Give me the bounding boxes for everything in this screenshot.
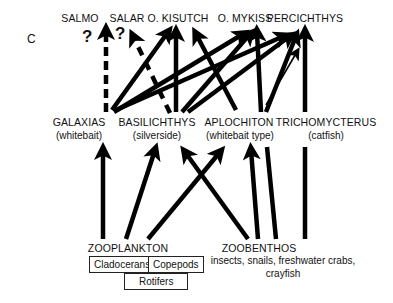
node-trichomycterus-common: (catfish) (308, 130, 344, 141)
group-rotifers: Rotifers (124, 273, 188, 290)
node-basilichthys-common: (silverside) (133, 130, 181, 141)
edge-zooplankton-basilichthys (126, 150, 155, 239)
zoobenthos-desc-line1: insects, snails, freshwater crabs, (211, 255, 356, 266)
node-aplochiton-common: (whitebait type) (206, 130, 274, 141)
question-mark-salmo: ? (82, 27, 92, 47)
edge-aplochiton-percichthys (266, 36, 296, 112)
group-cladocerans: Cladocerans (89, 256, 155, 273)
node-salar: SALAR (110, 12, 145, 24)
panel-label: C (27, 32, 36, 46)
node-percichthys: PERCICHTHYS (267, 12, 343, 24)
node-basilichthys: BASILICHTHYS (118, 116, 195, 128)
edge-zoobenthos-aplochiton (251, 150, 258, 239)
node-trichomycterus: TRICHOMYCTERUS (276, 116, 377, 128)
node-galaxias-common: (whitebait) (56, 130, 102, 141)
node-kisutch: O. KISUTCH (147, 12, 208, 24)
node-salmo: SALMO (61, 12, 98, 24)
edge-zoobenthos-line2 (267, 147, 276, 239)
food-web-diagram: C SALMO SALAR O. KISUTCH O. MYKISS PERCI… (0, 0, 393, 303)
node-zoobenthos: ZOOBENTHOS (222, 242, 297, 254)
question-mark-salar: ? (115, 24, 125, 44)
node-mykiss: O. MYKISS (218, 12, 273, 24)
node-aplochiton: APLOCHITON (204, 116, 273, 128)
edge-trichomycterus-percichthys (266, 50, 298, 105)
node-zooplankton: ZOOPLANKTON (88, 242, 168, 254)
edge-zooplankton-aplochiton (148, 152, 220, 239)
node-galaxias: GALAXIAS (53, 116, 106, 128)
zoobenthos-desc-line2: crayfish (266, 268, 300, 279)
group-copepods: Copepods (148, 256, 204, 273)
edge-zoobenthos-basilichthys (185, 152, 248, 239)
